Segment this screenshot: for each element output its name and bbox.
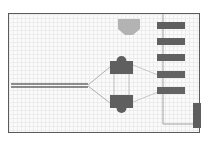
bar-1 <box>157 22 185 29</box>
link-bottom-to-bar <box>133 92 158 102</box>
bar-2 <box>157 38 185 45</box>
bar-4 <box>157 71 185 78</box>
branch-line-bottom <box>88 86 110 103</box>
bar-3 <box>157 54 185 61</box>
node-top <box>110 56 133 74</box>
bar-5 <box>157 87 185 94</box>
input-double-line <box>11 84 88 87</box>
diagram-svg <box>0 0 220 141</box>
node-bottom <box>110 95 133 113</box>
tall-bar <box>193 103 201 128</box>
bar-stack <box>157 22 185 94</box>
diagram-canvas <box>0 0 220 141</box>
branch-line-top <box>88 67 110 85</box>
link-top-to-bar <box>133 65 158 75</box>
top-shield-shape <box>118 19 140 35</box>
